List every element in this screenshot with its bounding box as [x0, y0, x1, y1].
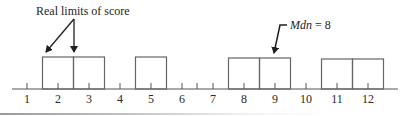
median-label: Mdn = 8 [289, 18, 331, 32]
real-limits-arrows [46, 19, 74, 52]
tick-label-5: 5 [148, 92, 154, 106]
axis-ticks [27, 83, 368, 89]
real-limits-label: Real limits of score [36, 4, 130, 18]
arrow-icon [46, 19, 74, 52]
tick-label-4: 4 [117, 92, 123, 106]
score-histogram: 1 2 3 4 5 6 7 8 9 10 11 12 Real limits o… [0, 0, 412, 116]
arrow-icon [274, 25, 287, 53]
tick-label-11: 11 [331, 92, 343, 106]
tick-label-6: 6 [179, 92, 185, 106]
bottom-divider [0, 113, 412, 115]
tick-label-3: 3 [86, 92, 92, 106]
tick-label-2: 2 [55, 92, 61, 106]
tick-label-12: 12 [362, 92, 374, 106]
tick-label-8: 8 [241, 92, 247, 106]
tick-label-9: 9 [272, 92, 278, 106]
median-arrow [274, 25, 287, 53]
median-symbol: Mdn [289, 18, 312, 32]
tick-label-7: 7 [210, 92, 216, 106]
tick-label-1: 1 [24, 92, 30, 106]
tick-label-10: 10 [300, 92, 312, 106]
median-value: = 8 [312, 18, 331, 32]
